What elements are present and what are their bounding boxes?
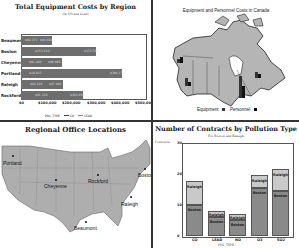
segment-label: Boston [187, 208, 202, 212]
category-label: Raleigh [1, 82, 18, 87]
bar-co-raleigh: Raleigh [186, 181, 203, 205]
legend-label: LEAD [84, 114, 92, 118]
bar-value: $62,371 [25, 38, 37, 42]
x-tick: $500,000 [135, 101, 151, 105]
city-label[interactable]: Rockford [88, 178, 108, 184]
legend: POL_TYPE CO LEAD [45, 114, 92, 118]
marker-raleigh [130, 196, 132, 198]
bar-portland: $19,825 $394,175 [21, 69, 122, 78]
bar-value: $91,150 [35, 93, 47, 97]
x-tick: LEAD [212, 238, 222, 242]
y-tick: 30 [177, 141, 182, 145]
marker-portland [12, 155, 14, 157]
bar-beaumont: $62,371 $64,629 [21, 36, 52, 45]
bar-value: $19,825 [29, 71, 41, 75]
segment-label: Boston [273, 194, 288, 198]
segment-label: Boston [230, 223, 245, 227]
bar-boston: $153,210 $153,790 [21, 47, 96, 56]
x-tick: CO [192, 238, 198, 242]
segment-label: Raleigh [187, 185, 202, 189]
bar-co-boston: Boston [186, 205, 203, 236]
segment-label: Boston [252, 191, 267, 195]
bar-value: $81,100 [29, 60, 41, 64]
bar-value: $84,120 [30, 82, 42, 86]
segment-label: Raleigh [252, 179, 267, 183]
x-tick: $300,000 [87, 101, 105, 105]
segment-label: Boston [209, 220, 224, 224]
bar-value: $153,790 [84, 49, 98, 53]
regional-office-map: Regional Office Locations Portland Cheye… [0, 122, 151, 248]
bar-no-boston: Boston [229, 220, 246, 236]
x-tick: O3 [257, 238, 262, 242]
city-label[interactable]: Portland [3, 160, 22, 166]
legend: Equipment Personnel [197, 107, 257, 112]
city-label[interactable]: Raleigh [121, 201, 138, 207]
bar-so2-raleigh: Raleigh [272, 169, 289, 191]
bar-value: $153,210 [35, 49, 49, 53]
chart-subtitle: (In CO and Lead) [0, 12, 151, 16]
y-axis-label: Contracts [155, 140, 170, 144]
y-tick: 10 [177, 203, 182, 207]
legend-swatch-personnel [254, 108, 257, 111]
legend-label: Personnel [230, 107, 250, 112]
bar-lead-boston: Boston [208, 217, 225, 236]
category-label: Rockford [1, 93, 21, 98]
contracts-chart: Number of Contracts by Pollution Type Fo… [153, 122, 299, 248]
bar-value: $87,880 [49, 82, 61, 86]
canada-map-shape [153, 10, 299, 120]
bar-value: $394,175 [110, 71, 124, 75]
bar-cheyenne: $81,100 $86,900 [21, 58, 62, 67]
city-label[interactable]: Boston [138, 172, 151, 178]
canada-costs-map: Equipment and Personnel Costs in Canada … [153, 0, 299, 120]
x-tick: $400,000 [111, 101, 129, 105]
legend-swatch-co [64, 115, 69, 116]
bar-value: $162,850 [70, 93, 84, 97]
city-label[interactable]: Cheyenne [44, 183, 67, 189]
city-label[interactable]: Beaumont [74, 225, 97, 231]
x-tick: $100,000 [38, 101, 56, 105]
marker-beaumont [85, 221, 87, 223]
bar-so2-boston: Boston [272, 191, 289, 236]
x-tick: SO2 [277, 238, 285, 242]
x-axis-label: POL_TYPE [153, 243, 299, 247]
chart-title: Number of Contracts by Pollution Type [153, 125, 299, 133]
category-label: Boston [1, 49, 17, 54]
category-label: Cheyenne [1, 60, 23, 65]
bar-value: $86,900 [48, 60, 60, 64]
chart-subtitle: For Boston and Raleigh [153, 134, 299, 138]
legend-label: CO [70, 114, 74, 118]
chart-title: Regional Office Locations [0, 125, 151, 134]
marker-rockford [97, 174, 99, 176]
bar-o3-boston: Boston [251, 188, 268, 236]
marker-boston [144, 168, 146, 170]
legend-title: POL_TYPE [45, 114, 60, 118]
bar-o3-raleigh: Raleigh [251, 175, 268, 188]
chart-title: Total Equipment Costs by Region [0, 3, 151, 11]
x-tick: $0 [19, 101, 24, 105]
equipment-costs-chart: Total Equipment Costs by Region (In CO a… [0, 0, 151, 120]
segment-label: Raleigh [273, 173, 288, 177]
x-tick: NO [235, 238, 241, 242]
legend-swatch-equipment [222, 108, 225, 111]
legend-label: Equipment [197, 107, 219, 112]
y-tick: 20 [177, 172, 182, 176]
marker-cheyenne [55, 179, 57, 181]
bar-value: $64,629 [40, 38, 52, 42]
bar-raleigh: $84,120 $87,880 [21, 80, 63, 89]
legend-swatch-lead [78, 115, 83, 116]
y-tick: 0 [177, 234, 179, 238]
bar-rockford: $91,150 $162,850 [21, 91, 83, 100]
x-tick: $200,000 [62, 101, 80, 105]
category-label: Portland [1, 71, 20, 76]
